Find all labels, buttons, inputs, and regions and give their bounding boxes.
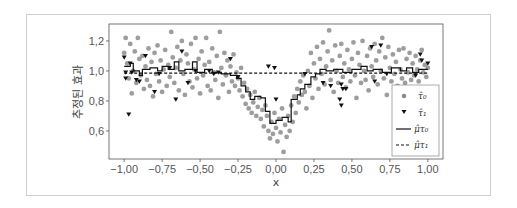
x-tick-label: 0,25 [303,163,324,175]
data-point [268,136,273,141]
data-point [169,30,174,35]
data-point [318,57,323,62]
data-point [404,57,409,62]
data-point [246,106,251,111]
data-point [204,36,209,41]
data-point [354,96,359,101]
data-point [196,57,201,62]
data-point [374,58,379,63]
data-point [413,54,418,59]
legend: τ̂₀ τ̂₁ μ̂τ₀ μ̂τ₁ [392,85,439,156]
data-point [202,63,207,68]
data-point [392,72,397,77]
x-tick-label: −0,75 [148,163,176,175]
data-point [316,87,321,92]
data-point-triangle [378,43,383,47]
data-point-triangle [152,90,157,94]
data-point [216,96,221,101]
data-point [324,64,329,69]
data-point [296,100,301,105]
data-point [369,64,374,69]
legend-label-1: τ̂₁ [418,108,427,118]
data-point [280,106,285,111]
data-point [198,91,203,96]
data-point [421,70,426,75]
x-axis: −1,00−0,75−0,50−0,250,000,250,500,751,00 [110,159,438,175]
data-point-triangle [272,66,277,70]
data-point [254,114,259,119]
data-point [190,85,195,90]
data-point [186,61,191,66]
legend-label-3: μ̂τ₁ [414,140,428,150]
data-point-triangle [274,97,279,101]
data-point [217,30,222,35]
y-tick-label: 1,0 [89,65,104,77]
data-point [330,58,335,63]
data-point [339,42,344,47]
data-point [219,66,224,71]
data-point [407,51,412,56]
data-point [272,111,277,116]
data-point [255,105,260,110]
data-point [237,88,242,93]
data-point [195,76,200,81]
data-point [342,61,347,66]
data-point-triangle [179,49,184,53]
data-point [302,90,307,95]
data-point-triangle [418,52,423,56]
data-point [394,60,399,65]
data-point [384,93,389,98]
data-point [227,90,232,95]
data-point-triangle [337,97,342,101]
data-point [132,49,137,54]
data-point [170,55,175,60]
data-point [207,60,212,65]
data-point [220,82,225,87]
y-tick-label: 1,2 [89,35,104,47]
data-point [249,111,254,116]
data-point [381,76,386,81]
data-point [152,51,157,56]
data-point [160,90,165,95]
data-point [142,87,147,92]
data-point [181,72,186,77]
data-point-triangle [266,64,271,68]
data-point [129,91,134,96]
data-point [222,51,227,56]
legend-label-0: τ̂₀ [418,91,427,101]
data-point [281,150,286,155]
data-point [360,39,365,44]
data-point [283,123,288,128]
data-point [184,52,189,57]
data-point [176,88,181,93]
data-point [350,57,355,62]
data-point [403,81,408,86]
data-point [351,40,356,45]
data-point [345,48,350,53]
data-point [410,61,415,66]
data-point [275,139,280,144]
data-point [260,108,265,113]
y-tick-label: 0,6 [89,125,104,137]
data-point [331,90,336,95]
data-point [193,36,198,41]
data-point [167,75,172,80]
data-point [327,28,332,33]
data-point [348,79,353,84]
data-point [337,54,342,59]
data-point [346,67,351,72]
data-point [284,135,289,140]
data-point [366,88,371,93]
data-point-triangle [328,84,333,88]
data-point [419,48,424,53]
scatter-points [122,28,431,154]
data-point [293,111,298,116]
data-point [252,90,257,95]
data-point [189,42,194,47]
data-point [233,84,238,89]
data-point [365,54,370,59]
data-point [251,100,256,105]
data-point-triangle [126,112,131,116]
x-tick-label: 0,50 [341,163,362,175]
data-point [208,88,213,93]
